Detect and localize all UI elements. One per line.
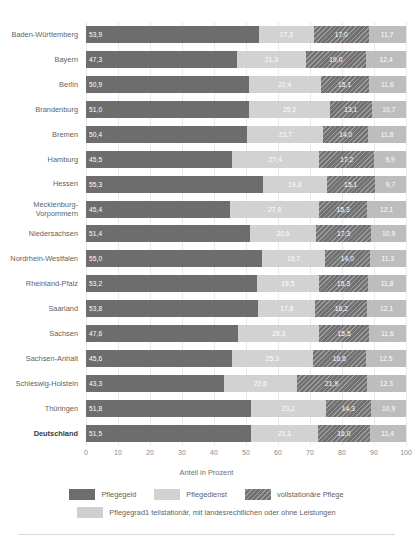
legend-item[interactable]: vollstationäre Pflege [245, 489, 344, 500]
stacked-bar: 51,521,116,011,4 [86, 425, 406, 442]
bar-segment: 53,9 [86, 26, 259, 43]
bar-segment: 15,3 [319, 275, 368, 292]
x-tick-label: 50 [242, 449, 250, 456]
bar-row: 47,625,315,511,6 [86, 321, 406, 346]
bar-row: 51,521,116,011,4 [86, 421, 406, 446]
stacked-bar: 51,420,617,310,9 [86, 225, 406, 242]
bar-segment: 55,0 [86, 250, 262, 267]
bar-segment: 10,9 [371, 225, 406, 242]
bar-segment: 12,4 [366, 51, 406, 68]
legend-swatch-icon [69, 489, 95, 500]
bar-segment: 45,6 [86, 350, 232, 367]
bar-segment: 17,0 [314, 26, 368, 43]
bar-segment: 14,0 [323, 126, 368, 143]
bar-segment: 43,3 [86, 375, 224, 392]
category-label: Schleswig-Holstein [0, 371, 82, 396]
bar-segment: 17,2 [319, 151, 374, 168]
bar-segment: 17,3 [259, 26, 314, 43]
bar-row: 51,420,617,310,9 [86, 222, 406, 247]
bar-row: 53,917,317,011,7 [86, 22, 406, 47]
x-tick-label: 90 [370, 449, 378, 456]
bar-segment: 15,1 [327, 176, 375, 193]
stacked-bar: 55,319,815,19,7 [86, 176, 406, 193]
bar-segment: 11,7 [369, 26, 406, 43]
bar-segment: 50,9 [86, 76, 249, 93]
bar-segment: 21,9 [297, 375, 367, 392]
stacked-bar: 51,823,214,310,9 [86, 400, 406, 417]
bar-segment: 25,3 [232, 350, 313, 367]
bar-row: 53,219,515,311,8 [86, 271, 406, 296]
bar-segment: 21,3 [237, 51, 305, 68]
x-axis-ticks: 0102030405060708090100 [86, 449, 406, 461]
stacked-bar: 51,025,213,110,7 [86, 101, 406, 118]
bar-segment: 11,3 [370, 250, 406, 267]
bar-segment: 19,0 [306, 51, 367, 68]
category-axis-labels: Baden-WürttembergBayernBerlinBrandenburg… [0, 22, 82, 446]
bar-row: 51,025,213,110,7 [86, 97, 406, 122]
bar-segment: 19,7 [262, 250, 325, 267]
category-label: Mecklenburg-Vorpommern [0, 197, 82, 222]
stacked-bar: 50,423,714,011,8 [86, 126, 406, 143]
stacked-bar: 45,625,316,612,5 [86, 350, 406, 367]
category-label: Niedersachsen [0, 222, 82, 247]
legend-item[interactable]: Pflegegeld [69, 489, 136, 500]
stacked-bar: 47,321,319,012,4 [86, 51, 406, 68]
category-label: Hamburg [0, 147, 82, 172]
category-label: Thüringen [0, 396, 82, 421]
bar-segment: 51,4 [86, 225, 250, 242]
stacked-bar: 53,917,317,011,7 [86, 26, 406, 43]
bar-segment: 10,9 [371, 400, 406, 417]
bar-segment: 53,8 [86, 300, 258, 317]
footer-divider [18, 534, 395, 535]
bar-segment: 10,7 [372, 101, 406, 118]
bar-row: 47,321,319,012,4 [86, 47, 406, 72]
stacked-bar: 47,625,315,511,6 [86, 325, 406, 342]
bar-segment: 12,5 [366, 350, 406, 367]
category-label: Baden-Württemberg [0, 22, 82, 47]
bar-segment: 21,1 [251, 425, 319, 442]
x-tick-label: 60 [274, 449, 282, 456]
bar-segment: 11,8 [368, 275, 406, 292]
bar-segment: 45,4 [86, 201, 230, 218]
bar-row: 45,625,316,612,5 [86, 346, 406, 371]
category-label: Nordrhein-Westfalen [0, 246, 82, 271]
legend-item[interactable]: Pflegegrad1 teilstationär, mit landesrec… [77, 507, 335, 518]
category-label: Saarland [0, 296, 82, 321]
bar-segment: 11,8 [368, 126, 406, 143]
legend-label: Pflegegrad1 teilstationär, mit landesrec… [109, 508, 335, 517]
category-label: Hessen [0, 172, 82, 197]
chart-legend: PflegegeldPflegedienstvollstationäre Pfl… [0, 489, 413, 525]
bar-segment: 12,3 [367, 375, 406, 392]
bar-segment: 47,6 [86, 325, 238, 342]
x-tick-label: 70 [306, 449, 314, 456]
bar-segment: 51,5 [86, 425, 251, 442]
bar-segment: 19,5 [257, 275, 320, 292]
x-tick-label: 30 [178, 449, 186, 456]
bar-segment: 16,2 [315, 300, 367, 317]
x-tick-label: 80 [338, 449, 346, 456]
bar-segment: 14,3 [326, 400, 372, 417]
stacked-bar: 43,322,621,912,3 [86, 375, 406, 392]
bar-segment: 11,6 [369, 76, 406, 93]
stacked-bar: 50,922,415,111,6 [86, 76, 406, 93]
x-axis-title: Anteil in Prozent [0, 468, 413, 477]
bar-segment: 11,6 [369, 325, 406, 342]
bar-segment: 19,8 [263, 176, 326, 193]
bar-segment: 9,7 [375, 176, 406, 193]
legend-item[interactable]: Pflegedienst [154, 489, 227, 500]
bar-row: 45,527,417,29,9 [86, 147, 406, 172]
legend-swatch-icon [77, 507, 103, 518]
x-tick-label: 0 [84, 449, 88, 456]
bar-segment: 15,5 [319, 325, 369, 342]
x-tick-label: 40 [210, 449, 218, 456]
bar-segment: 12,1 [367, 201, 405, 218]
bar-row: 51,823,214,310,9 [86, 396, 406, 421]
category-label: Berlin [0, 72, 82, 97]
bar-segment: 17,3 [316, 225, 371, 242]
bar-segment: 14,0 [325, 250, 370, 267]
x-tick-label: 100 [400, 449, 412, 456]
category-label: Brandenburg [0, 97, 82, 122]
legend-row-secondary: Pflegegrad1 teilstationär, mit landesrec… [0, 507, 413, 518]
bar-segment: 25,2 [249, 101, 330, 118]
bar-segment: 22,6 [224, 375, 296, 392]
